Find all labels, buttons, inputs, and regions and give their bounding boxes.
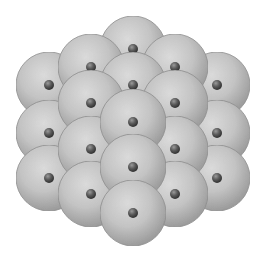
nucleus-dot-icon xyxy=(44,173,54,183)
nucleus-dot-icon xyxy=(128,80,138,90)
nucleus-dot-icon xyxy=(212,128,222,138)
nucleus-dot-icon xyxy=(128,117,138,127)
nucleus-dot-icon xyxy=(86,144,96,154)
nucleus-dot-icon xyxy=(44,80,54,90)
nucleus-dot-icon xyxy=(86,189,96,199)
nucleus-dot-icon xyxy=(86,98,96,108)
nucleus-dot-icon xyxy=(128,208,138,218)
nucleus-dot-icon xyxy=(170,144,180,154)
nucleus-dot-icon xyxy=(212,80,222,90)
atom-sphere xyxy=(100,180,166,246)
nucleus-dot-icon xyxy=(170,189,180,199)
lattice-diagram xyxy=(0,0,267,261)
lattice-svg xyxy=(0,0,267,261)
nucleus-dot-icon xyxy=(128,162,138,172)
nucleus-dot-icon xyxy=(44,128,54,138)
nucleus-dot-icon xyxy=(170,98,180,108)
nucleus-dot-icon xyxy=(212,173,222,183)
